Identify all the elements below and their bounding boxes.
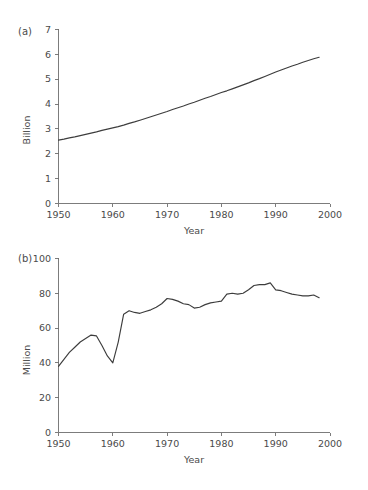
panel-a-ytick-1: 1: [45, 173, 51, 184]
panel-b-ytick-100: 100: [33, 253, 51, 264]
panel-b-ytick-40: 40: [39, 357, 51, 368]
panel-a-ytick-3: 3: [45, 123, 51, 134]
panel-b-ytick-60: 60: [39, 322, 51, 333]
figure-canvas: (a) 0 1 2 3 4 5 6 7 1950: [0, 0, 368, 490]
panel-b-xtick-1960: 1960: [101, 438, 125, 449]
panel-b-y-axis-title: Million: [21, 345, 32, 376]
panel-a-xtick-1950: 1950: [46, 209, 70, 220]
panel-a-ytick-0: 0: [45, 198, 51, 209]
panel-b-tag: (b): [18, 253, 32, 264]
panel-b-ytick-0: 0: [45, 427, 51, 438]
figure-background: [0, 0, 368, 490]
panel-a-tag: (a): [18, 26, 32, 37]
panel-a-xtick-1990: 1990: [264, 209, 288, 220]
panel-a-ytick-6: 6: [45, 49, 51, 60]
panel-a-ytick-2: 2: [45, 148, 51, 159]
panel-b-xtick-1980: 1980: [209, 438, 233, 449]
panel-b-ytick-20: 20: [39, 392, 51, 403]
panel-b-xtick-2000: 2000: [318, 438, 342, 449]
panel-a-y-axis-title: Billion: [21, 116, 32, 145]
panel-a-xtick-1980: 1980: [209, 209, 233, 220]
panel-a-xtick-2000: 2000: [318, 209, 342, 220]
panel-a-ytick-7: 7: [45, 24, 51, 35]
panel-a-xtick-1970: 1970: [155, 209, 179, 220]
panel-b-xtick-1970: 1970: [155, 438, 179, 449]
panel-a-ytick-4: 4: [45, 98, 51, 109]
panel-a-x-axis-title: Year: [183, 225, 204, 236]
panel-a-ytick-5: 5: [45, 73, 51, 84]
panel-a-xtick-1960: 1960: [101, 209, 125, 220]
panel-b-xtick-1990: 1990: [264, 438, 288, 449]
panel-b-ytick-80: 80: [39, 288, 51, 299]
panel-b-xtick-1950: 1950: [46, 438, 70, 449]
panel-b-x-axis-title: Year: [183, 454, 204, 465]
